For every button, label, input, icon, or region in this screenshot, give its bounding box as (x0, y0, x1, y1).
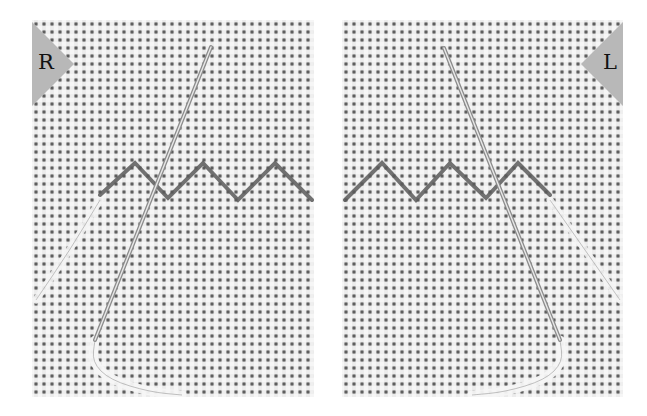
badge-label-l: L (603, 50, 617, 74)
badge-label-r: R (38, 50, 54, 74)
left-hand-badge: L (579, 22, 623, 106)
right-hand-badge: R (32, 22, 76, 106)
